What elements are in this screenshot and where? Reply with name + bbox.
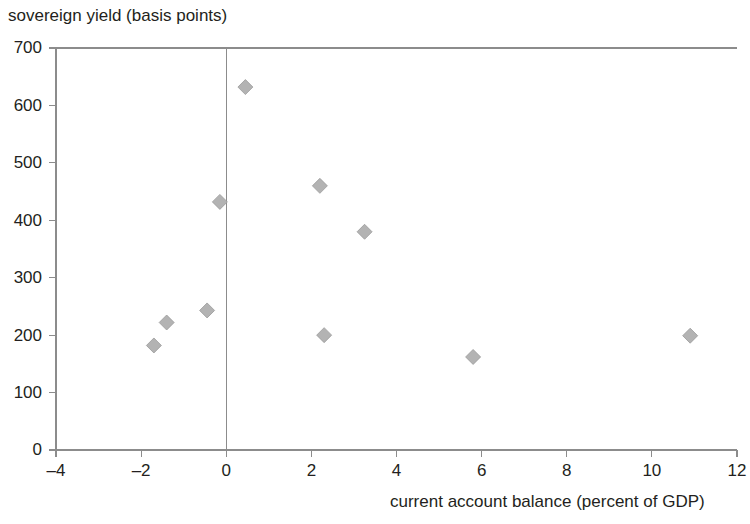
y-tick-label: 400 (14, 211, 42, 230)
y-tick-label: 300 (14, 268, 42, 287)
data-point-marker (357, 224, 372, 239)
data-point-marker (238, 80, 253, 95)
y-tick-label: 0 (33, 440, 42, 459)
x-tick-label: –4 (47, 461, 66, 480)
data-point-marker (212, 194, 227, 209)
data-points (146, 80, 697, 365)
plot-area: 0100200300400500600700 –4–2024681012 (0, 0, 750, 524)
axis-lines (56, 48, 737, 450)
x-axis-ticks: –4–2024681012 (47, 450, 747, 480)
x-tick-label: 6 (477, 461, 486, 480)
data-point-marker (317, 328, 332, 343)
y-tick-label: 600 (14, 96, 42, 115)
y-tick-label: 700 (14, 38, 42, 57)
x-tick-label: 4 (392, 461, 401, 480)
y-tick-label: 500 (14, 153, 42, 172)
y-axis-ticks: 0100200300400500600700 (14, 38, 56, 459)
y-tick-label: 200 (14, 326, 42, 345)
x-axis-title: current account balance (percent of GDP) (390, 492, 705, 512)
x-tick-label: 12 (728, 461, 747, 480)
y-tick-label: 100 (14, 383, 42, 402)
data-point-marker (146, 338, 161, 353)
data-point-marker (200, 303, 215, 318)
x-tick-label: 0 (222, 461, 231, 480)
data-point-marker (312, 178, 327, 193)
data-point-marker (466, 349, 481, 364)
scatter-chart-figure: sovereign yield (basis points) 010020030… (0, 0, 750, 524)
data-point-marker (683, 328, 698, 343)
x-tick-label: –2 (132, 461, 151, 480)
x-tick-label: 10 (642, 461, 661, 480)
data-point-marker (159, 315, 174, 330)
x-tick-label: 8 (562, 461, 571, 480)
x-tick-label: 2 (307, 461, 316, 480)
